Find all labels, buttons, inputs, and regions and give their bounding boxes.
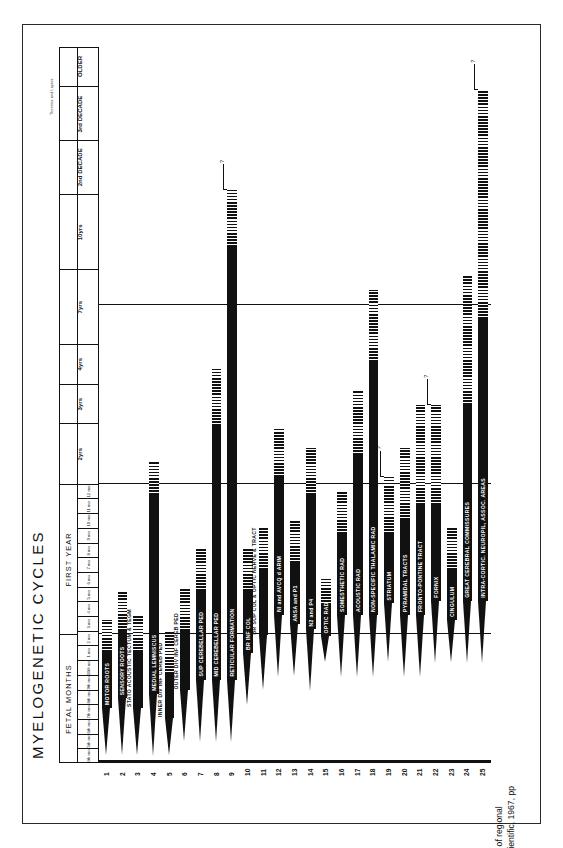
- bar-hatched-tail: [478, 90, 488, 319]
- row-number-18: 18: [369, 769, 376, 776]
- bar-13: ANSA and P1: [290, 520, 300, 678]
- bar-hatched-tail: [180, 588, 190, 631]
- chart-title: MYELOGENETIC CYCLES: [29, 530, 46, 759]
- bar-onset-ramp: [212, 680, 220, 742]
- uncertainty-stem: [223, 189, 227, 190]
- bar-24: GREAT CEREBRAL COMMISSURES: [463, 276, 473, 663]
- row-number-22: 22: [432, 769, 439, 776]
- axis-tick-10yrs: 10yrs: [59, 194, 99, 269]
- bar-hatched-tail: [290, 520, 300, 563]
- axis-tick-month: 4 mo: [78, 601, 99, 616]
- bar-hatched-tail: [274, 427, 284, 477]
- row-number-3: 3: [134, 772, 141, 776]
- bar-label: PYRAMIDAL TRACTS: [402, 554, 408, 612]
- bar-hatched-tail: [133, 616, 143, 652]
- row-number-6: 6: [181, 772, 188, 776]
- axis-tick-month: 12 mo: [78, 484, 99, 499]
- axis-tick-month: 10 mo: [78, 513, 99, 528]
- row-number-13: 13: [291, 769, 298, 776]
- bar-14: N2 and P4: [306, 448, 316, 691]
- bar-onset-ramp: [321, 636, 329, 662]
- bar-onset-ramp: [133, 708, 141, 755]
- axis-tick-month: 6th mo: [78, 719, 99, 734]
- bar-1: MOTOR ROOTS: [102, 620, 112, 756]
- row-number-17: 17: [354, 769, 361, 776]
- caption-tail: Edited by Minkowski A. Oxford, Blackwell…: [506, 786, 528, 848]
- bar-22: FORNIX?: [431, 405, 441, 663]
- bar-label: BR INF COL: [245, 617, 251, 650]
- row-number-2: 2: [119, 772, 126, 776]
- bar-hatched-tail: [431, 405, 441, 505]
- bar-onset-ramp: [447, 620, 455, 662]
- row-number-25: 25: [479, 769, 486, 776]
- axis-tick-older: OLDER: [59, 47, 99, 86]
- bar-hatched-tail: [353, 391, 363, 455]
- bar-onset-ramp: [274, 615, 282, 677]
- axis-tick-month: 9 mo: [78, 528, 99, 543]
- bar-12: NI and AVCQ d ARIM: [274, 427, 284, 678]
- bar-onset-ramp: [149, 694, 157, 756]
- bar-label: INTRA-CORTIC. NEUROPIL, ASSOC. AREAS: [480, 478, 486, 598]
- bar-label: INNER DIV INF CEREB PED: [157, 642, 163, 717]
- bar-hatched-tail: [463, 276, 473, 405]
- bar-19: STRIATUM?: [384, 477, 394, 663]
- uncertainty-arrow: [427, 379, 428, 405]
- figure-plate: MYELOGENETIC CYCLES Theories and Layers …: [22, 24, 541, 824]
- bar-label: MID CEREBELLAR PED: [213, 613, 219, 677]
- axis-tick-month: 8th mo: [78, 690, 99, 705]
- bar-label: STATO ACOUSTIC TECTUM & TEGM: [126, 609, 132, 707]
- axis-baseline: [99, 760, 491, 763]
- bar-label: BR SUP COL & OPTIC NERVE & TRACT: [251, 527, 257, 634]
- bar-onset-ramp: [180, 690, 188, 741]
- bar-label: ACOUSTIC RAD: [355, 569, 361, 612]
- bar-7: SUP CEREBELLAR PED: [196, 548, 206, 741]
- figure-caption: Figure 3-23. Timetable of myelination. (…: [493, 783, 530, 848]
- bar-hatched-tail: [227, 190, 237, 247]
- row-number-21: 21: [416, 769, 423, 776]
- bar-onset-ramp: [227, 680, 235, 742]
- bar-onset-ramp: [306, 629, 314, 691]
- bar-16: SOMESTHETIC RAD: [337, 491, 347, 677]
- axis-group-fetal-months: FETAL MONTHS: [59, 634, 77, 763]
- bar-hatched-tail: [149, 462, 159, 494]
- bar-onset-ramp: [118, 698, 126, 755]
- axis-tick-month: 2 mo: [78, 631, 99, 646]
- bar-hatched-tail: [196, 548, 206, 591]
- axis-tick-month: 1 mo: [78, 645, 99, 660]
- axis-tick-3rd-decade: 3rd DECADE: [59, 86, 99, 140]
- bar-label: RETICULAR FORMATION: [229, 609, 235, 677]
- figure-page: MYELOGENETIC CYCLES Theories and Layers …: [0, 0, 563, 848]
- bar-3: STATO ACOUSTIC TECTUM & TEGM: [133, 616, 143, 756]
- bar-onset-ramp: [290, 624, 298, 676]
- uncertainty-question-mark: ?: [423, 375, 429, 378]
- uncertainty-question-mark: ?: [219, 160, 225, 163]
- bar-onset-ramp: [353, 615, 361, 677]
- bar-onset-ramp: [165, 718, 173, 755]
- row-number-15: 15: [322, 769, 329, 776]
- row-number-24: 24: [463, 769, 470, 776]
- bar-11: BR SUP COL & OPTIC NERVE & TRACT: [259, 527, 269, 692]
- bar-15: OPTIC RAD: [321, 577, 331, 663]
- bar-label: N2 and P4: [308, 599, 314, 627]
- row-number-14: 14: [307, 769, 314, 776]
- bar-hatched-tail: [416, 405, 426, 505]
- axis-tick-3yrs: 3yrs: [59, 384, 99, 423]
- row-number-9: 9: [228, 772, 235, 776]
- bar-onset-ramp: [369, 615, 377, 677]
- row-number-19: 19: [385, 769, 392, 776]
- uncertainty-stem: [474, 89, 478, 90]
- bar-hatched-tail: [400, 448, 410, 520]
- bar-label: MOTOR ROOTS: [104, 663, 110, 705]
- bar-onset-ramp: [416, 615, 424, 677]
- row-number-12: 12: [275, 769, 282, 776]
- bar-label: SENSORY ROOTS: [119, 647, 125, 696]
- bar-label: CINGULUM: [449, 587, 455, 617]
- bar-hatched-tail: [447, 527, 457, 570]
- bar-onset-ramp: [337, 615, 345, 677]
- axis-tick-7yrs: 7yrs: [59, 269, 99, 344]
- uncertainty-stem: [380, 476, 384, 477]
- bar-hatched-tail: [337, 491, 347, 534]
- bar-23: CINGULUM: [447, 527, 457, 663]
- bar-hatched-tail: [259, 527, 269, 570]
- bar-onset-ramp: [243, 653, 251, 705]
